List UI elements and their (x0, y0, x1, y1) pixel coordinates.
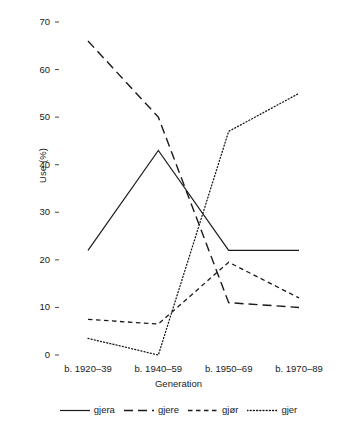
x-axis-tick: b. 1970–89 (275, 363, 323, 375)
chart-figure: Use (%) 010203040506070 b. 1920–39b. 194… (0, 0, 357, 434)
legend-label: gjer (281, 405, 297, 415)
series-line-gjere (88, 41, 299, 307)
x-axis-tick-labels: b. 1920–39b. 1940–59b. 1950–69b. 1970–89 (0, 363, 357, 377)
legend-item-gjere: gjere (124, 405, 179, 415)
legend-item-gjera: gjera (60, 405, 115, 415)
legend-label: gjera (94, 405, 115, 415)
series-line-gjera (88, 150, 299, 250)
series-line-gjør (88, 262, 299, 324)
legend-swatch-gjere (124, 406, 154, 415)
chart-legend: gjeragjeregjørgjer (0, 405, 357, 415)
legend-item-gjør: gjør (188, 405, 238, 415)
legend-label: gjere (158, 405, 179, 415)
legend-swatch-gjer (247, 406, 277, 415)
legend-swatch-gjera (60, 406, 90, 415)
x-axis-tick: b. 1920–39 (64, 363, 112, 375)
x-axis-tick: b. 1950–69 (205, 363, 253, 375)
series-line-gjer (88, 93, 299, 355)
legend-label: gjør (222, 405, 238, 415)
x-axis-tick: b. 1940–59 (135, 363, 183, 375)
legend-swatch-gjør (188, 406, 218, 415)
x-axis-label: Generation (0, 378, 357, 389)
legend-item-gjer: gjer (247, 405, 297, 415)
